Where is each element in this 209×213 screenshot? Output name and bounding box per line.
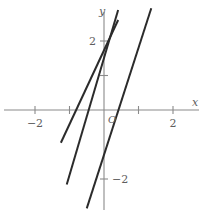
graph-canvas: −222−2 x y O (0, 0, 209, 213)
y-tick-label-2: 2 (89, 35, 96, 48)
coordinate-plane-figure: −222−2 x y O (0, 0, 209, 213)
x-tick-label--2: −2 (27, 117, 43, 130)
x-tick-label-2: 2 (170, 117, 177, 130)
graph-lines-group (61, 8, 151, 208)
y-tick-label--2: −2 (112, 173, 128, 186)
x-axis-label: x (192, 96, 199, 109)
y-axis-label: y (98, 5, 106, 18)
origin-label: O (108, 114, 116, 125)
axes-group (4, 12, 199, 210)
